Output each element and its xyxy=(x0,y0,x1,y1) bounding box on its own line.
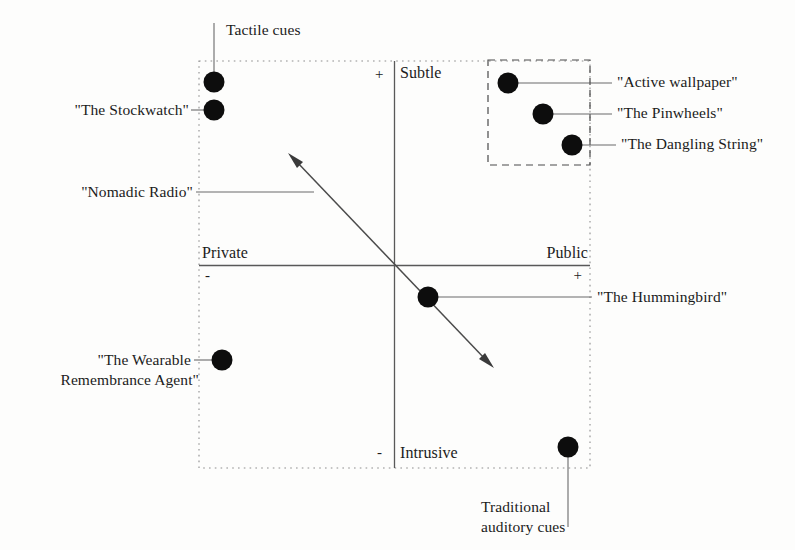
axis-sign-intrusive-minus: - xyxy=(377,443,382,462)
point-hummingbird[interactable] xyxy=(418,287,439,308)
point-stockwatch[interactable] xyxy=(204,100,225,121)
axis-label-subtle: Subtle xyxy=(400,63,442,82)
label-traditional-auditory-line2: auditory cues xyxy=(481,517,565,536)
point-tactile-cues[interactable] xyxy=(204,72,225,93)
label-active-wallpaper: "Active wallpaper" xyxy=(617,72,738,91)
axis-sign-subtle-plus: + xyxy=(375,65,384,84)
label-pinwheels: "The Pinwheels" xyxy=(617,103,723,122)
point-active-wallpaper[interactable] xyxy=(498,73,519,94)
label-wearable-agent-line2: Remembrance Agent" xyxy=(0,370,199,389)
label-traditional-auditory-line1: Traditional xyxy=(481,497,550,516)
axis-label-private: Private xyxy=(202,243,248,262)
axis-sign-public-plus: + xyxy=(470,266,582,285)
label-dangling-string: "The Dangling String" xyxy=(621,134,763,153)
point-pinwheels[interactable] xyxy=(533,104,554,125)
axis-label-intrusive: Intrusive xyxy=(400,443,458,462)
data-points xyxy=(204,72,583,458)
point-dangling-string[interactable] xyxy=(562,135,583,156)
trend-arrow xyxy=(288,153,494,368)
label-nomadic-radio: "Nomadic Radio" xyxy=(0,182,193,201)
axis-sign-private-minus: - xyxy=(205,266,210,285)
annotation-tactile-cues: Tactile cues xyxy=(226,20,301,39)
figure-canvas: Tactile cues "The Stockwatch" "Nomadic R… xyxy=(0,0,795,550)
point-wearable-agent[interactable] xyxy=(212,350,233,371)
point-traditional-auditory[interactable] xyxy=(558,437,579,458)
axis-label-public: Public xyxy=(470,243,588,262)
label-stockwatch: "The Stockwatch" xyxy=(0,100,189,119)
label-wearable-agent-line1: "The Wearable xyxy=(0,350,191,369)
label-hummingbird: "The Hummingbird" xyxy=(597,287,727,306)
